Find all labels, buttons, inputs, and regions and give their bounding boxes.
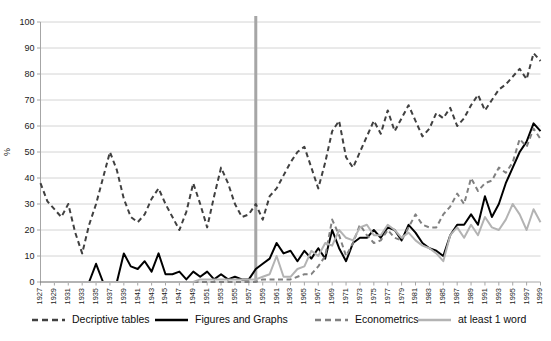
- y-tick-label: 70: [24, 95, 34, 105]
- x-tick-label: 1971: [341, 288, 350, 304]
- x-tick-label: 1961: [272, 288, 281, 304]
- x-tick-label: 1945: [160, 288, 169, 304]
- x-tick-label: 1985: [438, 288, 447, 304]
- legend-label-3: at least 1 word: [458, 313, 526, 325]
- series-line-1: [41, 123, 541, 282]
- x-tick-label: 1995: [508, 288, 517, 304]
- x-tick-label: 1931: [63, 288, 72, 304]
- series-line-3: [41, 204, 541, 282]
- y-tick-label: 80: [24, 69, 34, 79]
- x-tick-label: 1979: [397, 288, 406, 304]
- x-tick-label: 1981: [410, 288, 419, 304]
- x-tick-label: 1963: [285, 288, 294, 304]
- line-chart: 0102030405060708090100 % 192719291931193…: [0, 0, 551, 341]
- y-tick-label: 30: [24, 199, 34, 209]
- y-tick-label: 20: [24, 225, 34, 235]
- y-tick-label: 40: [24, 173, 34, 183]
- x-tick-label: 1987: [452, 288, 461, 304]
- x-tick-label: 1951: [202, 288, 211, 304]
- x-tick-label: 1957: [244, 288, 253, 304]
- legend-label-2: Econometrics: [355, 313, 419, 325]
- x-tick-label: 1975: [369, 288, 378, 304]
- x-tick-label: 1941: [133, 288, 142, 304]
- gridlines-group: [41, 22, 541, 282]
- x-tick-label: 1953: [216, 288, 225, 304]
- x-tick-label: 1947: [174, 288, 183, 304]
- x-tick-label: 1967: [313, 288, 322, 304]
- y-tick-label: 10: [24, 251, 34, 261]
- x-tick-label: 1955: [230, 288, 239, 304]
- x-tick-label: 1929: [49, 288, 58, 304]
- x-tick-label: 1939: [119, 288, 128, 304]
- x-tick-label: 1993: [494, 288, 503, 304]
- x-tick-label: 1989: [466, 288, 475, 304]
- series-group: [41, 53, 541, 282]
- y-axis-title-label: %: [2, 148, 12, 156]
- x-tick-label: 1991: [480, 288, 489, 304]
- x-tick-label: 1969: [327, 288, 336, 304]
- x-tick-label: 1959: [258, 288, 267, 304]
- x-tick-label: 1999: [535, 288, 544, 304]
- x-tick-label: 1937: [105, 288, 114, 304]
- y-tick-label: 100: [19, 17, 34, 27]
- y-tick-label: 50: [24, 147, 34, 157]
- x-tick-label: 1965: [299, 288, 308, 304]
- y-axis-group: 0102030405060708090100: [19, 17, 40, 287]
- y-tick-label: 90: [24, 43, 34, 53]
- legend-label-0: Decriptive tables: [72, 313, 150, 325]
- x-tick-label: 1933: [77, 288, 86, 304]
- x-tick-label: 1973: [355, 288, 364, 304]
- y-tick-label: 0: [29, 277, 34, 287]
- x-tick-label: 1943: [147, 288, 156, 304]
- x-axis-group: 1927192919311933193519371939194119431945…: [35, 282, 544, 304]
- y-tick-label: 60: [24, 121, 34, 131]
- x-tick-label: 1949: [188, 288, 197, 304]
- y-axis-title: %: [2, 148, 12, 156]
- x-tick-label: 1983: [424, 288, 433, 304]
- chart-container: 0102030405060708090100 % 192719291931193…: [0, 0, 551, 341]
- legend: Decriptive tablesFigures and GraphsEcono…: [32, 313, 526, 325]
- x-tick-label: 1997: [522, 288, 531, 304]
- x-tick-label: 1935: [91, 288, 100, 304]
- x-tick-label: 1927: [35, 288, 44, 304]
- legend-label-1: Figures and Graphs: [195, 313, 288, 325]
- x-tick-label: 1977: [383, 288, 392, 304]
